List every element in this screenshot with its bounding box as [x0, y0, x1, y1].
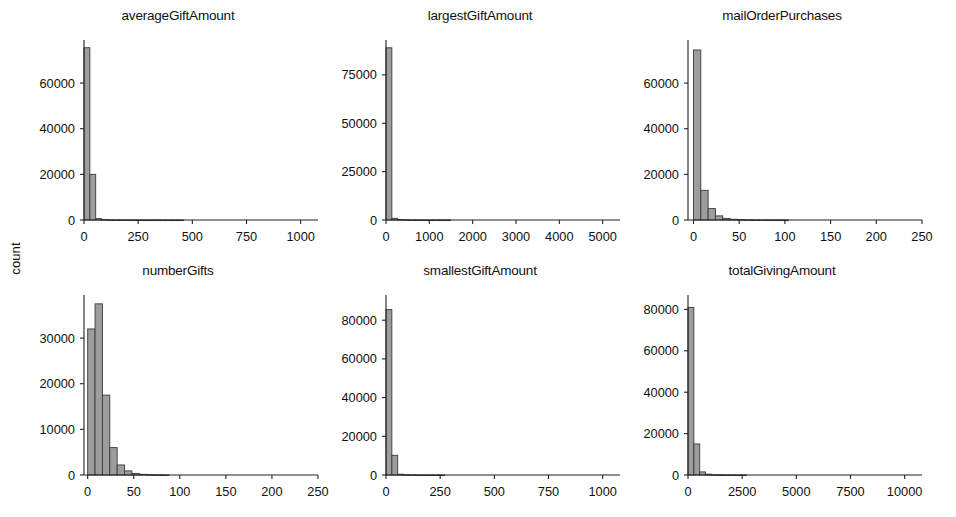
y-tick-label: 80000 — [643, 302, 679, 317]
x-tick-label: 250 — [127, 229, 148, 244]
y-tick-label: 0 — [672, 468, 679, 483]
y-tick-label: 20000 — [39, 376, 75, 391]
histogram-bar — [110, 448, 117, 475]
x-tick-label: 250 — [307, 484, 328, 499]
histogram-bar — [708, 209, 715, 220]
histogram-bar — [386, 48, 392, 220]
panel-averageGiftAmount: averageGiftAmount 0200004000060000025050… — [28, 8, 328, 260]
x-tick-label: 150 — [215, 484, 236, 499]
histogram-bar — [95, 304, 102, 475]
y-tick-label: 60000 — [643, 76, 679, 91]
x-tick-label: 750 — [236, 229, 257, 244]
histogram-bar — [102, 395, 109, 475]
y-tick-label: 25000 — [341, 164, 377, 179]
panel-title: averageGiftAmount — [28, 8, 328, 23]
plot-area: 020000400006000080000025005000750010000 — [632, 285, 932, 515]
x-tick-label: 0 — [690, 229, 697, 244]
x-tick-label: 250 — [911, 229, 932, 244]
x-tick-label: 4000 — [545, 229, 573, 244]
x-tick-label: 1000 — [286, 229, 314, 244]
histogram-bar — [694, 444, 700, 475]
y-tick-label: 0 — [370, 468, 377, 483]
plot-area: 0200004000060000050100150200250 — [632, 30, 932, 260]
panel-title: smallestGiftAmount — [330, 263, 630, 278]
y-tick-label: 40000 — [341, 390, 377, 405]
y-tick-label: 0 — [68, 213, 75, 228]
x-tick-label: 0 — [80, 229, 87, 244]
y-tick-label: 80000 — [341, 313, 377, 328]
histogram-bar — [90, 174, 96, 220]
histogram-svg: 0100002000030000050100150200250 — [28, 285, 328, 515]
x-tick-label: 500 — [484, 484, 505, 499]
x-tick-label: 3000 — [502, 229, 530, 244]
x-tick-label: 200 — [261, 484, 282, 499]
x-tick-label: 100 — [169, 484, 190, 499]
panel-title: totalGivingAmount — [632, 263, 932, 278]
x-tick-label: 0 — [382, 229, 389, 244]
x-tick-label: 0 — [684, 484, 691, 499]
x-tick-label: 10000 — [887, 484, 923, 499]
histogram-grid-figure: count averageGiftAmount 0200004000060000… — [0, 0, 956, 517]
y-tick-label: 20000 — [39, 167, 75, 182]
y-tick-label: 50000 — [341, 116, 377, 131]
y-tick-label: 0 — [68, 468, 75, 483]
histogram-bar — [84, 48, 90, 220]
histogram-bar — [88, 329, 95, 475]
x-tick-label: 500 — [182, 229, 203, 244]
histogram-svg: 0250005000075000010002000300040005000 — [330, 30, 630, 260]
y-tick-label: 60000 — [643, 343, 679, 358]
x-tick-label: 50 — [732, 229, 746, 244]
plot-area: 0100002000030000050100150200250 — [28, 285, 328, 515]
x-tick-label: 5000 — [588, 229, 616, 244]
x-tick-label: 150 — [820, 229, 841, 244]
panel-totalGivingAmount: totalGivingAmount 0200004000060000800000… — [632, 263, 932, 515]
y-axis-label-text: count — [8, 242, 23, 274]
panel-largestGiftAmount: largestGiftAmount 0250005000075000010002… — [330, 8, 630, 260]
y-tick-label: 40000 — [39, 121, 75, 136]
y-tick-label: 40000 — [643, 385, 679, 400]
plot-area: 020000400006000002505007501000 — [28, 30, 328, 260]
shared-y-axis-label: count — [2, 0, 28, 517]
plot-area: 0250005000075000010002000300040005000 — [330, 30, 630, 260]
y-tick-label: 0 — [672, 213, 679, 228]
panel-title: numberGifts — [28, 263, 328, 278]
x-tick-label: 2000 — [458, 229, 486, 244]
y-tick-label: 0 — [370, 213, 377, 228]
histogram-bar — [125, 471, 132, 475]
histogram-bar — [386, 310, 392, 475]
histogram-bar — [715, 216, 722, 220]
x-tick-label: 0 — [382, 484, 389, 499]
y-tick-label: 60000 — [39, 76, 75, 91]
histogram-bar — [392, 455, 398, 475]
y-tick-label: 10000 — [39, 422, 75, 437]
histogram-svg: 020000400006000080000025005000750010000 — [632, 285, 932, 515]
x-tick-label: 1000 — [588, 484, 616, 499]
y-tick-label: 60000 — [341, 351, 377, 366]
x-tick-label: 0 — [84, 484, 91, 499]
x-tick-label: 5000 — [782, 484, 810, 499]
plot-area: 02000040000600008000002505007501000 — [330, 285, 630, 515]
panel-mailOrderPurchases: mailOrderPurchases 020000400006000005010… — [632, 8, 932, 260]
y-tick-label: 20000 — [643, 167, 679, 182]
histogram-bar — [693, 50, 700, 220]
histogram-bar — [117, 465, 124, 475]
x-tick-label: 100 — [774, 229, 795, 244]
histogram-bar — [701, 190, 708, 220]
panel-title: mailOrderPurchases — [632, 8, 932, 23]
x-tick-label: 7500 — [836, 484, 864, 499]
y-tick-label: 40000 — [643, 121, 679, 136]
panel-title: largestGiftAmount — [330, 8, 630, 23]
y-tick-label: 75000 — [341, 67, 377, 82]
y-tick-label: 30000 — [39, 331, 75, 346]
x-tick-label: 2500 — [728, 484, 756, 499]
x-tick-label: 1000 — [415, 229, 443, 244]
panel-numberGifts: numberGifts 0100002000030000050100150200… — [28, 263, 328, 515]
histogram-svg: 02000040000600008000002505007501000 — [330, 285, 630, 515]
x-tick-label: 250 — [429, 484, 450, 499]
y-tick-label: 20000 — [341, 429, 377, 444]
y-tick-label: 20000 — [643, 426, 679, 441]
x-tick-label: 200 — [866, 229, 887, 244]
histogram-bar — [688, 307, 694, 475]
histogram-svg: 0200004000060000050100150200250 — [632, 30, 932, 260]
x-tick-label: 50 — [127, 484, 141, 499]
